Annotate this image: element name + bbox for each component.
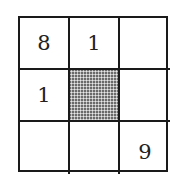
cell-r2-c3 xyxy=(120,70,170,122)
shaded-center-cell xyxy=(70,70,120,122)
number-grid: 8 1 1 9 xyxy=(18,16,168,172)
cell-value: 9 xyxy=(138,140,151,164)
cell-value: 1 xyxy=(37,83,50,107)
cell-value: 1 xyxy=(87,31,100,55)
cell-r3-c1 xyxy=(20,122,70,174)
cell-r3-c2 xyxy=(70,122,120,174)
cell-r2-c1: 1 xyxy=(20,70,70,122)
cell-value: 8 xyxy=(37,31,50,55)
cell-r1-c1: 8 xyxy=(20,18,70,70)
cell-r3-c3: 9 xyxy=(120,122,170,174)
cell-r1-c3 xyxy=(120,18,170,70)
cell-r1-c2: 1 xyxy=(70,18,120,70)
